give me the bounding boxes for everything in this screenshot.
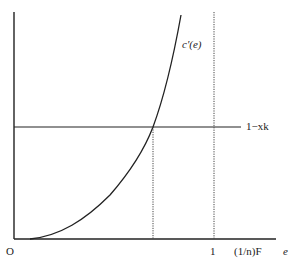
curve-label-c-prime-e: c′(e) (182, 39, 202, 50)
x-axis-label: e (283, 246, 288, 257)
line-label-1-xk: 1−xk (246, 121, 269, 132)
x-tick-1: 1 (210, 246, 216, 257)
origin-label: O (6, 246, 14, 257)
x-tick-1-over-n-F: (1/n)F (234, 246, 262, 257)
